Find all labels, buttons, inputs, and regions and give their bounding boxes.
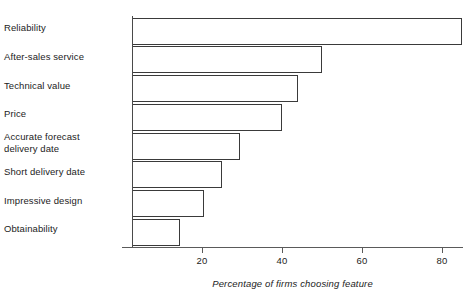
bar-after-sales-service	[132, 46, 322, 73]
category-label: Impressive design	[4, 195, 112, 207]
category-axis-labels: Reliability After-sales service Technica…	[0, 17, 120, 247]
category-label: Price	[4, 108, 112, 120]
bar-obtainability	[132, 219, 180, 246]
bar-technical-value	[132, 75, 298, 102]
y-axis-line	[132, 16, 133, 248]
bar-short-delivery-date	[132, 161, 222, 188]
x-axis-title: Percentage of firms choosing feature	[122, 278, 463, 289]
x-axis-tick	[442, 247, 443, 253]
bar-accurate-forecast-delivery-date	[132, 133, 240, 160]
x-axis-tick	[282, 247, 283, 253]
x-tick-label: 60	[357, 255, 368, 266]
x-axis-tick	[362, 247, 363, 253]
plot-area	[122, 17, 475, 247]
x-tick-label: 80	[437, 255, 448, 266]
category-label: Reliability	[4, 22, 112, 34]
x-tick-label: 40	[277, 255, 288, 266]
category-label: Obtainability	[4, 223, 112, 235]
category-label: After-sales service	[4, 51, 112, 63]
bar-price	[132, 104, 282, 131]
category-label: Technical value	[4, 80, 112, 92]
bar-chart: Reliability After-sales service Technica…	[0, 0, 475, 305]
bar-impressive-design	[132, 190, 204, 217]
x-axis-tick	[202, 247, 203, 253]
category-label: Short delivery date	[4, 166, 112, 178]
bar-reliability	[132, 18, 462, 45]
x-tick-label: 20	[197, 255, 208, 266]
category-label: Accurate forecast delivery date	[4, 131, 112, 154]
x-axis-line	[122, 247, 463, 248]
